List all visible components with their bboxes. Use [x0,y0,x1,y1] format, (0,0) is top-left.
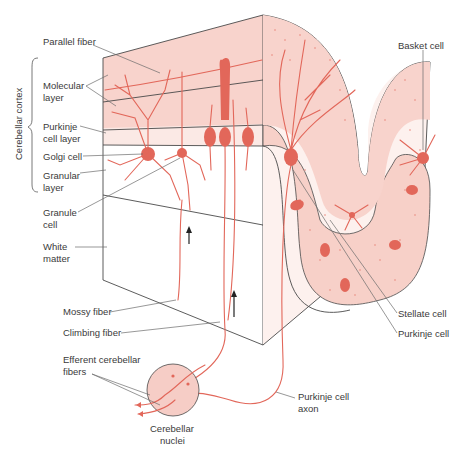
cerebellar-cortex-diagram: Cerebellar cortex Parallel fiber Molecul… [0,0,460,451]
label-granule-cell-2: cell [43,219,57,230]
label-white-matter-1: White [43,241,67,252]
label-basket-cell: Basket cell [398,40,444,51]
cerebellar-nuclei [135,364,205,417]
label-white-matter-2: matter [43,253,70,264]
label-climbing-fiber: Climbing fiber [63,327,121,338]
label-axon-1: Purkinje cell [298,391,349,402]
label-nuclei-1: Cerebellar [150,423,194,434]
label-molecular-layer-2: layer [43,92,64,103]
label-purkinje-layer-2: cell layer [43,133,81,144]
purkinje-cell-fold [284,148,298,166]
cortex-brace [28,58,38,192]
label-stellate-cell: Stellate cell [398,308,447,319]
purkinje-axon-front [160,147,225,395]
purkinje-cell-soma-3 [242,127,254,147]
label-molecular-layer-1: Molecular [43,80,84,91]
cerebellar-cortex-label: Cerebellar cortex [13,87,24,160]
label-granule-cell-1: Granule [43,207,77,218]
label-mossy-fiber: Mossy fiber [63,306,112,317]
label-granular-layer-1: Granular [43,170,80,181]
mossy-fiber [178,200,182,300]
label-parallel-fiber: Parallel fiber [43,36,96,47]
climbing-fiber-terminal [220,58,231,120]
label-purkinje-cell: Purkinje cell [398,328,449,339]
purkinje-cell-soma-1 [204,127,216,147]
purkinje-cell-soma-2 [219,127,231,147]
label-efferent-2: fibers [63,366,86,377]
label-efferent-1: Efferent cerebellar [63,354,140,365]
label-golgi-cell: Golgi cell [43,151,82,162]
label-nuclei-2: nuclei [160,435,185,446]
label-purkinje-layer-1: Purkinje [43,121,77,132]
label-axon-2: axon [298,403,319,414]
label-granular-layer-2: layer [43,182,64,193]
